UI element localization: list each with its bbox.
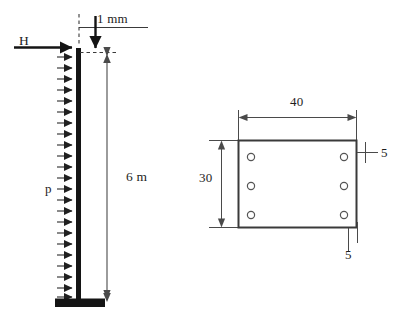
figure-canvas <box>0 0 399 323</box>
plate-thickness-right-label: 5 <box>381 146 388 159</box>
bolt-hole <box>340 182 347 189</box>
bolt-hole <box>247 211 254 218</box>
bolt-hole <box>340 153 347 160</box>
bolt-hole <box>340 211 347 218</box>
bolt-hole <box>247 182 254 189</box>
height-dimension-arrowhead-top <box>103 54 111 63</box>
distributed-load-label: p <box>45 182 52 195</box>
column-height-label: 6 m <box>126 170 147 184</box>
plate-height-arrowhead-top <box>218 141 225 150</box>
plate-width-label: 40 <box>290 95 303 108</box>
base-plate-support <box>55 299 105 308</box>
plate-height-arrowhead-bottom <box>218 219 225 228</box>
base-plate-outline <box>239 141 357 228</box>
bolt-hole <box>247 153 254 160</box>
plate-width-arrowhead-right <box>348 114 357 121</box>
deflection-label: 1 mm <box>97 12 128 25</box>
distributed-load-arrows <box>57 57 72 297</box>
point-load-label: H <box>19 34 29 48</box>
plate-width-arrowhead-left <box>239 114 248 121</box>
engineering-figure: H 1 mm p 6 m 40 30 5 5 <box>0 0 399 323</box>
plate-height-label: 30 <box>199 171 212 184</box>
plate-thickness-bottom-label: 5 <box>345 248 352 261</box>
